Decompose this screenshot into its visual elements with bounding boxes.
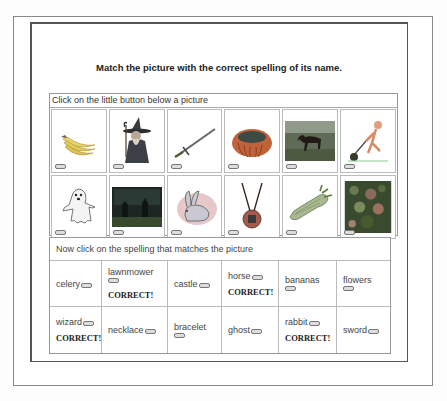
pick-button-necklace[interactable] xyxy=(228,230,239,235)
spelling-word: bananas xyxy=(285,275,330,285)
pick-spelling-button[interactable] xyxy=(108,278,119,283)
pick-spelling-button[interactable] xyxy=(252,275,263,280)
spelling-word: castle xyxy=(174,279,198,289)
correct-label: CORRECT! xyxy=(285,333,330,343)
rabbit-image xyxy=(171,183,219,231)
spelling-word: celery xyxy=(56,279,80,289)
spelling-word: ghost xyxy=(228,325,250,335)
spelling-cell: ghost xyxy=(222,307,279,353)
spelling-word: lawnmower xyxy=(108,267,161,277)
picture-cell-celery xyxy=(282,175,338,239)
spelling-cell: necklace xyxy=(102,307,168,353)
pick-button-bracelet[interactable] xyxy=(228,164,239,169)
correct-label: CORRECT! xyxy=(56,333,95,343)
spelling-word: necklace xyxy=(108,325,144,335)
spelling-cell: horse CORRECT! xyxy=(222,261,279,307)
spelling-cell: castle xyxy=(168,261,222,307)
bananas-image xyxy=(55,117,103,165)
spelling-instruction: Now click on the spelling that matches t… xyxy=(50,238,390,261)
picture-cell-necklace xyxy=(224,175,280,239)
pick-button-bananas[interactable] xyxy=(55,164,66,169)
pick-button-rabbit[interactable] xyxy=(171,230,182,235)
picture-table: Click on the little button below a pictu… xyxy=(49,93,398,236)
picture-cell-sword xyxy=(167,109,223,173)
picture-cell-ghost xyxy=(51,175,107,239)
pick-spelling-button[interactable] xyxy=(343,286,354,291)
spelling-word: flowers xyxy=(343,275,386,285)
page-title: Match the picture with the correct spell… xyxy=(30,62,408,73)
spelling-word: bracelet xyxy=(174,322,215,332)
spelling-cell: wizard CORRECT! xyxy=(50,307,102,353)
spelling-cell: sword xyxy=(337,307,392,353)
pick-spelling-button[interactable] xyxy=(251,329,262,334)
picture-cell-bananas xyxy=(51,109,107,173)
wizard-image xyxy=(113,117,161,165)
spelling-cell: celery xyxy=(50,261,102,307)
celery-image xyxy=(286,183,334,231)
spelling-table: Now click on the spelling that matches t… xyxy=(49,237,391,354)
pick-button-wizard[interactable] xyxy=(113,164,124,169)
pick-button-castle[interactable] xyxy=(113,230,124,235)
picture-cell-rabbit xyxy=(167,175,223,239)
pick-spelling-button[interactable] xyxy=(368,329,379,334)
sword-image xyxy=(171,117,219,165)
spelling-cell: flowers xyxy=(337,261,392,307)
bracelet-image xyxy=(228,117,276,165)
pick-spelling-button[interactable] xyxy=(199,283,210,288)
pick-button-flowers[interactable] xyxy=(344,230,355,235)
spelling-cell: lawnmower CORRECT! xyxy=(102,261,168,307)
spelling-word: wizard xyxy=(56,317,82,327)
pick-spelling-button[interactable] xyxy=(83,321,94,326)
spelling-word: sword xyxy=(343,325,367,335)
pick-spelling-button[interactable] xyxy=(174,333,185,338)
spelling-word: rabbit xyxy=(285,317,308,327)
picture-cell-flowers xyxy=(340,175,396,239)
picture-cell-castle xyxy=(109,175,165,239)
flowers-image xyxy=(343,181,393,233)
spelling-cell: bracelet xyxy=(168,307,222,353)
necklace-image xyxy=(228,183,276,231)
pick-spelling-button[interactable] xyxy=(145,329,156,334)
correct-label: CORRECT! xyxy=(108,290,161,300)
picture-cell-wizard xyxy=(109,109,165,173)
pick-button-ghost[interactable] xyxy=(55,230,66,235)
spelling-cell: bananas xyxy=(279,261,337,307)
pick-spelling-button[interactable] xyxy=(285,286,296,291)
castle-image xyxy=(112,187,162,227)
correct-label: CORRECT! xyxy=(228,287,272,297)
pick-button-celery[interactable] xyxy=(286,230,297,235)
spelling-cell: rabbit CORRECT! xyxy=(279,307,337,353)
ghost-image xyxy=(55,183,103,231)
spelling-word: horse xyxy=(228,271,251,281)
pick-spelling-button[interactable] xyxy=(81,283,92,288)
picture-cell-bracelet xyxy=(224,109,280,173)
picture-instruction: Click on the little button below a pictu… xyxy=(50,94,397,108)
horse-image xyxy=(285,121,335,161)
picture-cell-horse xyxy=(282,109,338,173)
pick-spelling-button[interactable] xyxy=(309,321,320,326)
picture-cell-lawnmower xyxy=(340,109,396,173)
pick-button-lawnmower[interactable] xyxy=(344,164,355,169)
lawnmower-image xyxy=(344,117,392,165)
pick-button-sword[interactable] xyxy=(171,164,182,169)
pick-button-horse[interactable] xyxy=(286,164,297,169)
